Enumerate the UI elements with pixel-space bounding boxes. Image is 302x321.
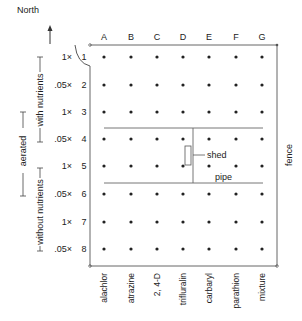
plot-dot (155, 83, 158, 86)
column-letter: E (206, 32, 212, 42)
row-concentration: .05× (54, 80, 72, 90)
plot-dot (155, 164, 158, 167)
plot-dot (181, 110, 184, 113)
row-number: 3 (81, 107, 86, 117)
plot-dot (234, 164, 237, 167)
plot-dot (234, 220, 237, 223)
plot-dot (129, 192, 132, 195)
without-nutrients-label: without nutrients (35, 179, 45, 246)
plot-dot (234, 55, 237, 58)
chemical-label: carbaryl (204, 273, 214, 303)
plot-dot (129, 55, 132, 58)
row-labels: 1×1.05×21×3.05×41×5.05×61×7.05×8 (54, 52, 86, 254)
plot-dot (102, 137, 105, 140)
chemical-label: mixture (257, 273, 267, 301)
shed-label: shed (207, 150, 227, 160)
chemical-label: parathion (231, 273, 241, 309)
plot-dot (102, 192, 105, 195)
plot-dot (129, 83, 132, 86)
chemical-label: alachlor (99, 273, 109, 303)
row-number: 7 (81, 217, 86, 227)
plot-dot (155, 247, 158, 250)
aerated-bracket: aerated (18, 112, 28, 196)
plot-dot (181, 164, 184, 167)
plot-dot (260, 164, 263, 167)
plot-dot (207, 247, 210, 250)
row-concentration: .05× (54, 189, 72, 199)
plot-dot (234, 192, 237, 195)
plot-dot (260, 55, 263, 58)
plot-dot (155, 55, 158, 58)
row-number: 8 (81, 244, 86, 254)
plot-dot (129, 137, 132, 140)
without-nutrients-bracket: without nutrients (35, 168, 45, 251)
row-number: 1 (81, 52, 86, 62)
row-concentration: 1× (62, 161, 72, 171)
plot-dot (129, 110, 132, 113)
plot-dot (260, 83, 263, 86)
pipe-label: pipe (215, 172, 232, 182)
plot-dot (260, 220, 263, 223)
column-letter: G (258, 32, 265, 42)
plot-dot (207, 220, 210, 223)
plot-dot (102, 220, 105, 223)
plot-grid (102, 55, 263, 250)
row-number: 4 (81, 134, 86, 144)
plot-dot (129, 247, 132, 250)
row-number: 2 (81, 80, 86, 90)
plot-dot (102, 55, 105, 58)
plot-dot (260, 137, 263, 140)
plot-dot (207, 55, 210, 58)
plot-dot (234, 247, 237, 250)
chemical-label: atrazine (126, 273, 136, 304)
column-letter: D (180, 32, 187, 42)
row-concentration: 1× (62, 52, 72, 62)
row-concentration: .05× (54, 134, 72, 144)
fence-label: fence (284, 144, 294, 166)
plot-dot (181, 220, 184, 223)
plot-dot (181, 192, 184, 195)
column-letter: C (154, 32, 161, 42)
plot-dot (234, 83, 237, 86)
north-label: North (17, 5, 39, 15)
plot-dot (102, 110, 105, 113)
plot-dot (181, 137, 184, 140)
row-concentration: 1× (62, 107, 72, 117)
plot-dot (207, 137, 210, 140)
north-indicator: North (17, 5, 53, 44)
plot-dot (207, 192, 210, 195)
plot-dot (234, 110, 237, 113)
shed: shed (185, 146, 227, 165)
row-concentration: 1× (62, 217, 72, 227)
chemical-labels: alachloratrazine2, 4-Dtrifluralincarbary… (99, 273, 267, 309)
aerated-label: aerated (18, 136, 28, 167)
plot-dot (260, 110, 263, 113)
column-letters: ABCDEFG (101, 32, 266, 42)
plot-dot (102, 247, 105, 250)
column-letter: B (128, 32, 134, 42)
with-nutrients-bracket: with nutrients (35, 57, 45, 142)
plot-dot (234, 137, 237, 140)
plot-dot (207, 83, 210, 86)
plot-dot (102, 164, 105, 167)
plot-dot (207, 164, 210, 167)
chemical-label: trifluralin (178, 273, 188, 305)
field-plot-diagram: North ABCDEFG 1×1.05×21×3.05×41×5.05×61×… (0, 0, 302, 321)
column-letter: F (233, 32, 239, 42)
row-number: 5 (81, 161, 86, 171)
chemical-label: 2, 4-D (152, 273, 162, 296)
plot-dot (155, 192, 158, 195)
row-number: 6 (81, 189, 86, 199)
plot-dot (260, 247, 263, 250)
plot-dot (155, 110, 158, 113)
plot-dot (181, 247, 184, 250)
pipe-system: pipe (104, 128, 263, 183)
plot-dot (207, 110, 210, 113)
plot-dot (260, 192, 263, 195)
north-arrow-icon (48, 25, 53, 44)
plot-dot (181, 55, 184, 58)
row-concentration: .05× (54, 244, 72, 254)
plot-dot (155, 220, 158, 223)
plot-dot (129, 164, 132, 167)
with-nutrients-label: with nutrients (35, 73, 45, 128)
